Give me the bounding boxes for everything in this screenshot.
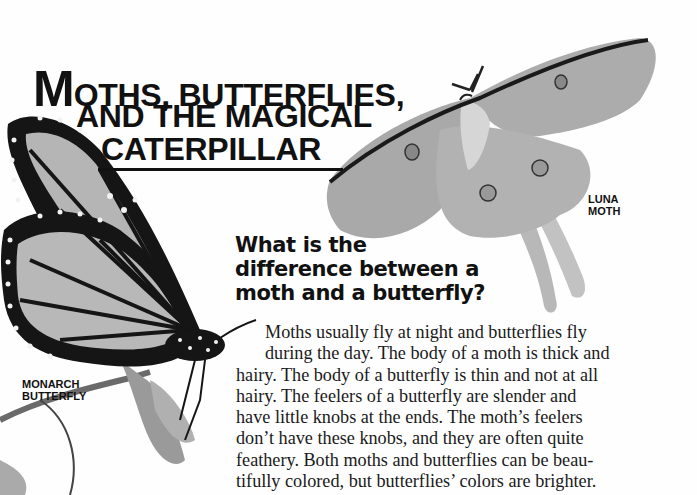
- luna-moth-caption: LUNA MOTH: [588, 193, 620, 217]
- monarch-butterfly-caption: MONARCH BUTTERFLY: [22, 378, 86, 402]
- title-underline-rule: [98, 168, 343, 171]
- question-heading: What is the difference between a moth an…: [235, 233, 485, 305]
- question-line: difference between a: [235, 257, 485, 281]
- caption-line: MOTH: [588, 205, 620, 217]
- paragraph-line: Moths usually fly at night and butterfli…: [236, 322, 696, 343]
- caption-line: BUTTERFLY: [22, 390, 86, 402]
- paragraph-line: have little knobs at the ends. The moth’…: [236, 407, 696, 428]
- paragraph-line: don’t have these knobs, and they are oft…: [236, 428, 696, 449]
- title-line-2: AND THE MAGICAL: [76, 100, 372, 132]
- monarch-butterfly-image: [0, 116, 256, 495]
- answer-paragraph: Moths usually fly at night and butterfli…: [236, 322, 696, 492]
- paragraph-line: tifully colored, but butterflies’ colors…: [236, 471, 696, 492]
- title-line-3: CATERPILLAR: [101, 133, 321, 165]
- paragraph-line: during the day. The body of a moth is th…: [236, 343, 696, 364]
- book-page: MOTHS, BUTTERFLIES, AND THE MAGICAL CATE…: [0, 0, 697, 495]
- caption-line: MONARCH: [22, 378, 86, 390]
- paragraph-line: feathery. Both moths and butterflies can…: [236, 450, 696, 471]
- paragraph-line: hairy. The body of a butterfly is thin a…: [236, 365, 696, 386]
- paragraph-line: hairy. The feelers of a butterfly are sl…: [236, 386, 696, 407]
- title-drop-initial: M: [33, 61, 74, 117]
- question-line: What is the: [235, 233, 485, 257]
- question-line: moth and a butterfly?: [235, 281, 485, 305]
- caption-line: LUNA: [588, 193, 620, 205]
